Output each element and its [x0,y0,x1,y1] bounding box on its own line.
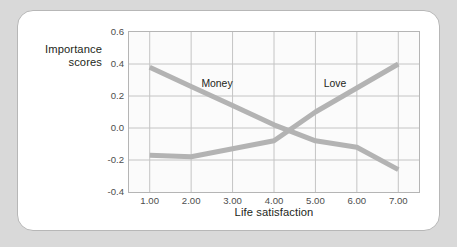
x-tick-label: 3.00 [211,196,255,206]
y-tick-label: 0.4 [90,59,124,69]
y-tick-label: 0.6 [90,27,124,37]
chart-figure: Importance scores Life satisfaction 0.60… [0,0,457,247]
x-tick-label: 1.00 [128,196,172,206]
y-tick-label: 0.0 [90,123,124,133]
x-tick-label: 4.00 [252,196,296,206]
plot-area: MoneyLove [128,31,420,193]
x-tick-label: 7.00 [376,196,420,206]
y-tick-label: 0.2 [90,91,124,101]
series-label-love: Love [324,77,347,88]
y-tick-label: -0.4 [90,187,124,197]
x-tick-label: 5.00 [293,196,337,206]
x-tick-label: 6.00 [335,196,379,206]
x-axis-tick-labels: 1.002.003.004.005.006.007.00 [128,196,420,208]
plot-canvas [129,32,419,192]
series-label-money: Money [201,77,232,88]
y-tick-label: -0.2 [90,155,124,165]
gridlines [129,32,419,192]
y-axis-tick-labels: 0.60.40.20.0-0.2-0.4 [88,31,124,193]
x-tick-label: 2.00 [169,196,213,206]
